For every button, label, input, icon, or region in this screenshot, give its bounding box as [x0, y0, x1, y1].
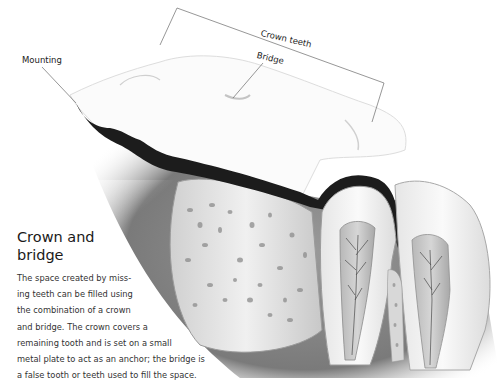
caption-body: The space created by miss- ing teeth can…	[17, 270, 347, 383]
caption-line: remaining tooth and is set on a small	[17, 335, 347, 351]
caption-line: a false tooth or teeth used to fill the …	[17, 367, 347, 383]
caption-title: Crown and bridge	[17, 228, 127, 264]
mounting-leader	[42, 67, 76, 103]
label-mounting: Mounting	[22, 55, 62, 65]
caption-line: the combination of a crown	[17, 302, 347, 318]
caption-line: metal plate to act as an anchor; the bri…	[17, 351, 347, 367]
caption-line: ing teeth can be filled using	[17, 286, 347, 302]
caption-block: Crown and bridge The space created by mi…	[17, 228, 347, 383]
natural-tooth	[395, 181, 490, 370]
caption-line: The space created by miss-	[17, 270, 347, 286]
caption-line: and bridge. The crown covers a	[17, 319, 347, 335]
